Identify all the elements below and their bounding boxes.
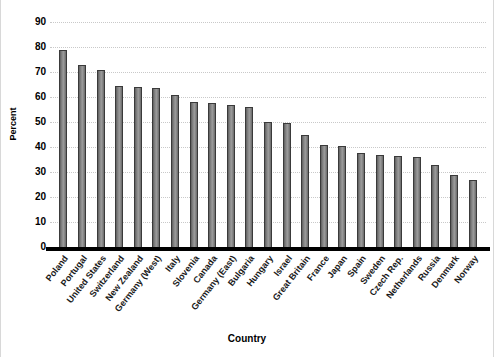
bar-chart: Percent 9080706050403020100 PolandPortug…	[0, 0, 494, 357]
x-label-slot: Germany (West)	[147, 252, 166, 330]
bar[interactable]	[450, 175, 458, 248]
bar[interactable]	[320, 145, 328, 248]
bar-slot	[259, 22, 278, 247]
bar-slot	[166, 22, 185, 247]
bar-slot	[389, 22, 408, 247]
bar[interactable]	[264, 122, 272, 247]
bar[interactable]	[152, 88, 160, 247]
bar-slot	[352, 22, 371, 247]
y-axis-tick-label: 60	[35, 92, 46, 102]
bar[interactable]	[338, 146, 346, 247]
bar-slot	[408, 22, 427, 247]
y-axis-tick-label: 30	[35, 167, 46, 177]
bar-slot	[240, 22, 259, 247]
bar-slot	[277, 22, 296, 247]
x-label-slot: Bulgaria	[240, 252, 259, 330]
x-label-slot: Great Britain	[296, 252, 315, 330]
bar[interactable]	[357, 153, 365, 247]
bar-slot	[128, 22, 147, 247]
bar-slot	[445, 22, 464, 247]
y-axis-tick-label: 10	[35, 217, 46, 227]
bar-series	[50, 22, 486, 247]
frame-left-edge	[0, 0, 1, 357]
x-axis-title: Country	[0, 333, 494, 344]
plot-area	[50, 22, 486, 247]
bar-slot	[333, 22, 352, 247]
x-axis-tick-labels: PolandPortugalUnited StatesSwitzerlandNe…	[50, 252, 486, 330]
bar[interactable]	[376, 155, 384, 248]
bar[interactable]	[115, 86, 123, 247]
bar[interactable]	[301, 135, 309, 248]
bar-slot	[54, 22, 73, 247]
x-label-slot: Netherlands	[408, 252, 427, 330]
bar[interactable]	[59, 50, 67, 248]
bar[interactable]	[97, 70, 105, 248]
y-axis-tick-labels: 9080706050403020100	[22, 0, 46, 260]
bar[interactable]	[394, 156, 402, 247]
bar-slot	[315, 22, 334, 247]
bar-slot	[221, 22, 240, 247]
y-axis-tick-label: 70	[35, 67, 46, 77]
bar-slot	[91, 22, 110, 247]
y-axis-tick-label: 40	[35, 142, 46, 152]
bar[interactable]	[431, 165, 439, 248]
bar-slot	[203, 22, 222, 247]
x-label-slot: Norway	[463, 252, 482, 330]
bar[interactable]	[190, 102, 198, 247]
bar[interactable]	[413, 157, 421, 247]
x-axis-baseline	[46, 247, 490, 251]
x-label-slot: Germany (East)	[221, 252, 240, 330]
y-axis-tick-label: 20	[35, 192, 46, 202]
y-axis-tick-label: 50	[35, 117, 46, 127]
y-axis-tick-label: 80	[35, 42, 46, 52]
bar[interactable]	[245, 107, 253, 247]
bar-slot	[184, 22, 203, 247]
bar-slot	[147, 22, 166, 247]
bar[interactable]	[134, 87, 142, 247]
bar-slot	[463, 22, 482, 247]
x-label-slot: France	[315, 252, 334, 330]
bar[interactable]	[283, 123, 291, 247]
bar-slot	[426, 22, 445, 247]
bar[interactable]	[227, 105, 235, 248]
bar[interactable]	[171, 95, 179, 248]
bar[interactable]	[78, 65, 86, 248]
bar-slot	[296, 22, 315, 247]
x-label-slot: Japan	[333, 252, 352, 330]
bar-slot	[370, 22, 389, 247]
x-label-slot: Denmark	[445, 252, 464, 330]
y-axis-title: Percent	[4, 0, 22, 247]
x-label-slot: Russia	[426, 252, 445, 330]
x-label-slot: Italy	[166, 252, 185, 330]
y-axis-tick-label: 90	[35, 17, 46, 27]
bar[interactable]	[469, 180, 477, 248]
y-axis-title-text: Percent	[8, 107, 18, 140]
bar[interactable]	[208, 103, 216, 247]
bar-slot	[73, 22, 92, 247]
bar-slot	[110, 22, 129, 247]
